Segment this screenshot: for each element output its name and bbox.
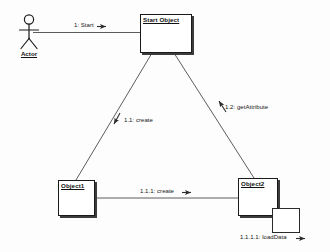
object-box-start-object[interactable]: Start Object xyxy=(140,14,192,53)
actor-stick-figure-icon xyxy=(20,15,39,49)
message-label-start: 1: Start xyxy=(74,22,94,29)
message-label-create-object1: 1.1: create xyxy=(124,117,153,124)
message-label-getattribute: 1.2: getAttribute xyxy=(225,104,268,111)
object-box-object1[interactable]: Object1 xyxy=(58,180,95,216)
uml-collaboration-diagram: Actor Start Object Object1 Object2 1: St… xyxy=(0,0,330,252)
object-label-object1: Object1 xyxy=(61,182,84,190)
self-message-loop-object2 xyxy=(272,208,300,233)
object-label-object2: Object2 xyxy=(241,180,264,188)
object-label-start-object: Start Object xyxy=(143,16,179,24)
message-label-loaddata: 1.1.1.1: loadData xyxy=(240,234,287,241)
message-label-create-object2: 1.1.1: create xyxy=(140,188,174,195)
actor-label: Actor xyxy=(13,50,45,58)
link-start-object-to-object2 xyxy=(174,53,254,178)
